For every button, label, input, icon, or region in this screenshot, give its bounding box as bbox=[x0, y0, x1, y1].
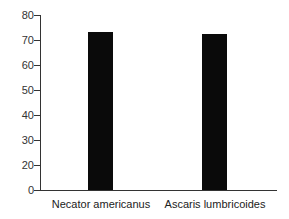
x-category-label: Necator americanus bbox=[41, 198, 161, 210]
y-tick-label: 60 bbox=[8, 60, 34, 71]
bar-necator-americanus bbox=[88, 32, 113, 190]
y-tick-label: 50 bbox=[8, 85, 34, 96]
y-tick bbox=[34, 40, 40, 41]
y-tick-label: 40 bbox=[8, 110, 34, 121]
y-tick-label: 0 bbox=[8, 185, 34, 196]
x-axis bbox=[40, 190, 277, 191]
y-tick-label: 30 bbox=[8, 135, 34, 146]
y-tick bbox=[34, 65, 40, 66]
y-axis bbox=[40, 15, 41, 191]
bar-ascaris-lumbricoides bbox=[202, 34, 227, 190]
y-tick bbox=[34, 140, 40, 141]
x-category-label: Ascaris lumbricoides bbox=[155, 198, 275, 210]
bar-chart: 80 70 60 50 40 30 20 0 Necator americanu… bbox=[0, 0, 289, 219]
y-tick-label: 70 bbox=[8, 35, 34, 46]
y-tick bbox=[34, 190, 40, 191]
y-tick bbox=[34, 165, 40, 166]
y-tick-label: 80 bbox=[8, 10, 34, 21]
y-tick bbox=[34, 115, 40, 116]
y-tick bbox=[34, 15, 40, 16]
y-tick bbox=[34, 90, 40, 91]
y-tick-label: 20 bbox=[8, 160, 34, 171]
